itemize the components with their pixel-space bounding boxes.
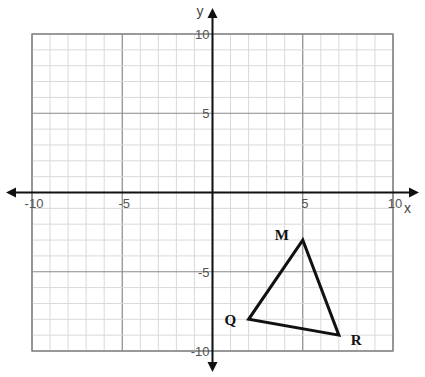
- x-tick-label: -5: [118, 196, 130, 211]
- y-tick-label: 10: [195, 27, 209, 42]
- coordinate-plane: xy -10-5510105-5-10 MQR: [0, 0, 425, 377]
- arrow-down-icon: [208, 362, 218, 372]
- y-tick-label: -10: [191, 344, 210, 359]
- arrow-left-icon: [6, 188, 16, 198]
- arrow-right-icon: [409, 188, 419, 198]
- arrow-up-icon: [208, 8, 218, 18]
- x-tick-label: 10: [388, 196, 402, 211]
- x-tick-label: 5: [301, 196, 308, 211]
- x-tick-label: -10: [25, 196, 44, 211]
- y-axis-name: y: [197, 3, 204, 19]
- y-tick-label: 5: [202, 106, 209, 121]
- vertex-label-m: M: [275, 227, 289, 243]
- vertex-label-r: R: [351, 332, 362, 348]
- y-tick-label: -5: [198, 265, 210, 280]
- vertex-label-q: Q: [225, 312, 237, 328]
- x-axis-name: x: [404, 200, 411, 216]
